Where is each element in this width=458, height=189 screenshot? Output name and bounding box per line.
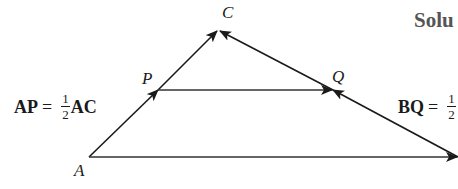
- equation-ap-rhs: AC: [71, 98, 97, 116]
- point-label-C: C: [222, 4, 233, 21]
- fraction-numerator: 1: [61, 92, 70, 107]
- equation-ap-lhs: AP: [14, 98, 38, 116]
- point-label-P: P: [142, 70, 152, 87]
- solution-heading: Solu: [414, 10, 454, 31]
- equation-ap-equals: =: [42, 98, 52, 116]
- fraction-half: 1 2: [61, 92, 70, 121]
- equation-ap: AP = 1 2 AC: [14, 92, 97, 121]
- point-label-A: A: [74, 162, 84, 179]
- vector-QC: [220, 31, 333, 90]
- equation-bq-equals: =: [428, 98, 438, 116]
- equation-bq: BQ = 1 2: [398, 92, 457, 121]
- vector-PC: [158, 31, 217, 90]
- fraction-denominator: 2: [62, 107, 69, 121]
- fraction-half-partial: 1 2: [447, 92, 456, 121]
- fraction-numerator: 1: [447, 92, 456, 107]
- fraction-denominator: 2: [448, 107, 455, 121]
- vector-AP: [89, 90, 158, 157]
- equation-bq-lhs: BQ: [398, 98, 424, 116]
- vector-triangle-diagram: C P Q A AP = 1 2 AC BQ = 1 2 Solu: [0, 0, 458, 189]
- point-label-Q: Q: [332, 68, 344, 85]
